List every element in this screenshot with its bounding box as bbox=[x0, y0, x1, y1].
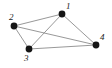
edge-layer bbox=[14, 14, 96, 49]
graph-diagram: 1234 bbox=[0, 0, 112, 68]
graph-node-4 bbox=[93, 42, 100, 49]
graph-node-1 bbox=[59, 11, 66, 18]
graph-node-2 bbox=[11, 23, 18, 30]
graph-edge-1-4 bbox=[62, 14, 96, 45]
graph-edge-1-3 bbox=[29, 14, 62, 49]
graph-edge-1-2 bbox=[14, 14, 62, 26]
graph-node-label-4: 4 bbox=[100, 33, 105, 42]
graph-edge-2-3 bbox=[14, 26, 29, 49]
graph-node-label-3: 3 bbox=[24, 54, 29, 63]
graph-edge-2-4 bbox=[14, 26, 96, 45]
graph-node-3 bbox=[26, 46, 33, 53]
graph-node-label-1: 1 bbox=[66, 2, 71, 11]
graph-edge-3-4 bbox=[29, 45, 96, 49]
node-layer bbox=[11, 11, 100, 53]
graph-canvas bbox=[0, 0, 112, 68]
graph-node-label-2: 2 bbox=[9, 13, 14, 22]
